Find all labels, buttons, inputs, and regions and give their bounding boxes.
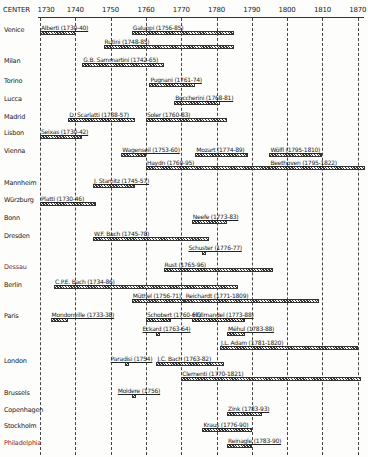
composer-label: Mozart (1774-89): [196, 146, 244, 153]
composer-bar: [192, 318, 245, 322]
composer-bar: [132, 31, 234, 35]
composer-bar: [269, 153, 322, 157]
composer-label: J. Stamitz (1745-57): [94, 177, 149, 184]
composer-timeline-chart: CENTER 173017401750176017701780179018001…: [0, 0, 368, 457]
composer-label: Eckard (1763-64): [142, 325, 190, 332]
x-tick-label: 1770: [173, 6, 190, 14]
x-tick-label: 1730: [37, 6, 54, 14]
composer-label: Paradisi (1754): [111, 355, 153, 362]
composer-bar: [269, 166, 364, 170]
composer-label: J.L. Adam (1781-1820): [221, 339, 283, 346]
composer-label: Reichardt (1771-1809): [186, 292, 249, 299]
composer-label: Pugnani (1761-74): [150, 76, 201, 83]
composer-bar: [202, 251, 206, 255]
composer-bar: [149, 83, 195, 87]
composer-label: Alberti (1730-40): [41, 24, 88, 31]
composer-bar: [121, 153, 146, 157]
composer-bar: [40, 135, 82, 139]
center-column-header: CENTER: [3, 6, 30, 14]
city-label: Copenhagen: [4, 406, 43, 414]
composer-label: Neefe (1773-83): [193, 213, 239, 220]
composer-label: Zink (1783-93): [228, 405, 269, 412]
composer-label: Platti (1730-46): [41, 195, 84, 202]
composer-bar: [185, 299, 319, 303]
gridline: [287, 18, 288, 455]
composer-bar: [104, 45, 235, 49]
composer-label: Seixas (1730-42): [41, 128, 88, 135]
composer-bar: [132, 394, 136, 398]
composer-bar: [146, 166, 270, 170]
composer-label: Reinagle (1783-90): [228, 437, 281, 444]
composer-label: Boccherini (1768-81): [175, 94, 233, 101]
composer-bar: [174, 101, 220, 105]
gridline: [217, 18, 218, 455]
x-tick-label: 1760: [137, 6, 154, 14]
composer-label: W.F. Bach (1745-78): [94, 230, 149, 237]
composer-label: J.C. Bach (1763-82): [157, 355, 210, 362]
x-tick-label: 1810: [314, 6, 331, 14]
composer-bar: [164, 268, 273, 272]
composer-label: Hüllmandel (1773-88): [193, 311, 254, 318]
composer-label: Moldere (1756): [118, 387, 160, 394]
composer-bar: [93, 237, 209, 241]
composer-bar: [227, 444, 252, 448]
x-tick-label: 1780: [208, 6, 225, 14]
composer-bar: [54, 285, 238, 289]
gridline: [358, 18, 359, 455]
city-label: Würzburg: [4, 196, 34, 204]
city-label: Bonn: [4, 214, 20, 222]
composer-bar: [82, 63, 163, 67]
composer-bar: [93, 184, 135, 188]
city-label: Brussels: [4, 389, 30, 397]
composer-label: Mondonville (1733-38): [52, 311, 115, 318]
composer-label: Rutini (1748-85): [105, 38, 150, 45]
city-label: Madrid: [4, 113, 25, 121]
city-label: Philadelphia: [4, 439, 41, 447]
composer-label: C.P.E. Bach (1734-86): [55, 278, 115, 285]
city-label: Lucca: [4, 95, 22, 103]
composer-bar: [125, 362, 129, 366]
city-label: Lisbon: [4, 129, 24, 137]
city-label: Milan: [4, 57, 20, 65]
composer-label: Müthel (1756-71): [133, 292, 181, 299]
composer-label: G.B. Sammartini (1742-65): [83, 56, 158, 63]
composer-bar: [146, 318, 171, 322]
composer-label: Kraus (1776-90): [203, 421, 248, 428]
composer-bar: [40, 31, 75, 35]
composer-bar: [40, 202, 96, 206]
composer-label: Wagenseil (1753-60): [122, 146, 180, 153]
city-label: Mannheim: [4, 179, 37, 187]
composer-label: D. Scarlatti (1738-57): [69, 111, 129, 118]
composer-label: Wölfl (1795-1810): [270, 146, 320, 153]
composer-label: Méhul (1783-88): [228, 325, 274, 332]
gridline: [252, 18, 253, 455]
composer-bar: [132, 299, 185, 303]
city-label: Berlin: [4, 281, 22, 289]
x-tick-label: 1870: [349, 6, 366, 14]
composer-label: Galuppi (1756-85): [133, 24, 184, 31]
composer-label: Soler (1760-83): [147, 111, 190, 118]
composer-label: Clementi (1770-1821): [182, 370, 243, 377]
x-axis-line: [38, 17, 364, 18]
city-label: Dessau: [4, 263, 27, 271]
composer-label: Rust (1765-96): [165, 261, 206, 268]
composer-bar: [227, 332, 245, 336]
composer-bar: [181, 377, 361, 381]
composer-label: Schuster (1776-77): [188, 244, 242, 251]
x-tick-label: 1790: [243, 6, 260, 14]
composer-bar: [51, 318, 69, 322]
composer-bar: [192, 220, 227, 224]
composer-bar: [195, 153, 248, 157]
gridline: [75, 18, 76, 455]
composer-label: Haydn (1760-95): [147, 159, 194, 166]
composer-bar: [68, 118, 135, 122]
composer-bar: [156, 332, 160, 336]
composer-bar: [202, 428, 251, 432]
composer-label: Beethoven (1795-1822): [270, 159, 336, 166]
city-label: Paris: [4, 312, 18, 320]
city-label: London: [4, 357, 27, 365]
x-tick-label: 1800: [279, 6, 296, 14]
x-tick-label: 1740: [67, 6, 84, 14]
gridline: [322, 18, 323, 455]
city-label: Torino: [4, 77, 22, 85]
